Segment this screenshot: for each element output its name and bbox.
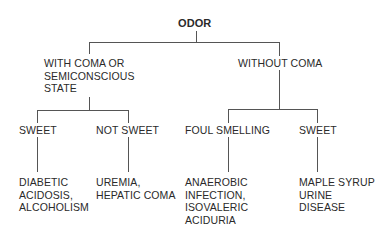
leaf-1-line-1: DIABETIC bbox=[19, 176, 89, 189]
leaf-4-line-2: URINE bbox=[299, 189, 375, 202]
connector-sweet-nocoma-to-leaf bbox=[317, 137, 318, 172]
connector-level1-horizontal bbox=[89, 42, 279, 43]
leaf-1-line-3: ALCOHOLISM bbox=[19, 201, 89, 214]
connector-without-coma-horizontal bbox=[228, 109, 318, 110]
connector-to-foul-smelling bbox=[228, 109, 229, 123]
with-coma-line-3: STATE bbox=[44, 82, 135, 95]
sweet-coma-label: SWEET bbox=[19, 124, 57, 136]
leaf-2-line-2: HEPATIC COMA bbox=[96, 189, 176, 202]
leaf-3-line-4: ACIDURIA bbox=[185, 214, 248, 227]
leaf-4-line-1: MAPLE SYRUP bbox=[299, 176, 375, 189]
root-label: ODOR bbox=[178, 17, 211, 29]
node-sweet-coma: SWEET bbox=[19, 124, 57, 137]
leaf-3-line-2: INFECTION, bbox=[185, 189, 248, 202]
leaf-diabetic-acidosis: DIABETIC ACIDOSIS, ALCOHOLISM bbox=[19, 176, 89, 214]
leaf-3-line-1: ANAEROBIC bbox=[185, 176, 248, 189]
foul-smelling-label: FOUL SMELLING bbox=[185, 124, 270, 136]
node-sweet-nocoma: SWEET bbox=[299, 124, 337, 137]
node-without-coma: WITHOUT COMA bbox=[238, 57, 322, 70]
leaf-1-line-2: ACIDOSIS, bbox=[19, 189, 89, 202]
connector-root-down bbox=[196, 31, 197, 42]
without-coma-line-1: WITHOUT COMA bbox=[238, 57, 322, 70]
node-foul-smelling: FOUL SMELLING bbox=[185, 124, 270, 137]
leaf-anaerobic-infection: ANAEROBIC INFECTION, ISOVALERIC ACIDURIA bbox=[185, 176, 248, 226]
node-with-coma: WITH COMA OR SEMICONSCIOUS STATE bbox=[44, 57, 135, 95]
not-sweet-label: NOT SWEET bbox=[96, 124, 159, 136]
connector-to-sweet-nocoma bbox=[317, 109, 318, 123]
leaf-maple-syrup: MAPLE SYRUP URINE DISEASE bbox=[299, 176, 375, 214]
connector-with-coma-down bbox=[89, 97, 90, 110]
with-coma-line-1: WITH COMA OR bbox=[44, 57, 135, 70]
connector-to-not-sweet bbox=[128, 110, 129, 123]
leaf-4-line-3: DISEASE bbox=[299, 201, 375, 214]
connector-with-coma-horizontal bbox=[37, 110, 129, 111]
leaf-3-line-3: ISOVALERIC bbox=[185, 201, 248, 214]
root-node-odor: ODOR bbox=[178, 17, 211, 30]
connector-to-sweet-coma bbox=[37, 110, 38, 123]
connector-foul-smelling-to-leaf bbox=[228, 137, 229, 172]
connector-without-coma-down bbox=[279, 70, 280, 109]
leaf-2-line-1: UREMIA, bbox=[96, 176, 176, 189]
connector-not-sweet-to-leaf bbox=[128, 137, 129, 172]
connector-to-without-coma bbox=[279, 42, 280, 56]
node-not-sweet: NOT SWEET bbox=[96, 124, 159, 137]
connector-to-with-coma bbox=[89, 42, 90, 54]
connector-sweet-coma-to-leaf bbox=[37, 137, 38, 172]
leaf-uremia: UREMIA, HEPATIC COMA bbox=[96, 176, 176, 201]
sweet-nocoma-label: SWEET bbox=[299, 124, 337, 136]
with-coma-line-2: SEMICONSCIOUS bbox=[44, 70, 135, 83]
